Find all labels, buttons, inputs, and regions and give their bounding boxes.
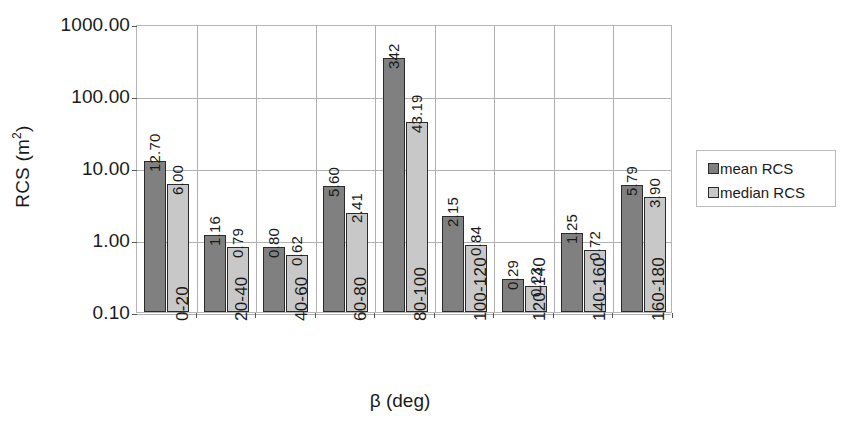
- bar-value-label: 6.00: [170, 165, 185, 195]
- bar-value-label: 43.19: [409, 95, 424, 134]
- x-axis-tick-mark: [255, 313, 256, 318]
- y-axis-tick-label: 10.00: [34, 159, 130, 178]
- bar-value-label: 0.29: [505, 260, 520, 290]
- legend-swatch-mean-icon: [708, 163, 719, 174]
- bar-value-label: 2.15: [445, 197, 460, 227]
- bar-value-label: 1.25: [564, 214, 579, 244]
- bar-mean-rcs: [383, 58, 405, 312]
- y-axis-tick-label: 0.10: [34, 303, 130, 322]
- x-axis-tick-label: 0-20: [174, 286, 191, 321]
- x-axis-tick-mark: [672, 313, 673, 318]
- y-axis-tick-label: 1.00: [34, 231, 130, 250]
- bar-value-label: 1.16: [207, 216, 222, 246]
- x-axis-tick-mark: [553, 313, 554, 318]
- bar-value-label: 0.80: [266, 228, 281, 258]
- gridline-vertical: [375, 26, 376, 312]
- bar-value-label: 5.60: [326, 167, 341, 197]
- x-axis-tick-label: 60-80: [352, 277, 369, 321]
- bar-value-label: 0.84: [468, 226, 483, 256]
- x-axis-tick-mark: [315, 313, 316, 318]
- bar-value-label: 0.62: [289, 236, 304, 266]
- y-axis-title-exponent: 2: [10, 132, 24, 139]
- legend-label-median: median RCS: [720, 185, 805, 200]
- y-axis-tick-mark: [132, 170, 137, 171]
- x-axis-tick-label: 160-180: [650, 257, 667, 321]
- gridline-vertical: [613, 26, 614, 312]
- x-axis-tick-mark: [196, 313, 197, 318]
- bar-value-label: 5.79: [624, 166, 639, 196]
- bar-mean-rcs: [323, 186, 345, 312]
- legend-swatch-median-icon: [708, 187, 719, 198]
- x-axis-tick-mark: [612, 313, 613, 318]
- y-axis-tick-label: 100.00: [34, 87, 130, 106]
- bar-value-label: 3.90: [647, 178, 662, 208]
- bar-mean-rcs: [442, 216, 464, 312]
- x-axis-tick-label: 120-140: [531, 257, 548, 321]
- gridline-vertical: [256, 26, 257, 312]
- x-axis-tick-mark: [493, 313, 494, 318]
- legend-item-median: median RCS: [708, 182, 835, 203]
- rcs-bar-chart: RCS (m2) 1000.00100.0010.001.000.10 12.7…: [0, 0, 868, 436]
- gridline-vertical: [316, 26, 317, 312]
- bar-mean-rcs: [621, 185, 643, 312]
- x-axis-tick-label: 40-60: [293, 277, 310, 321]
- y-axis-tick-labels: 1000.00100.0010.001.000.10: [30, 0, 130, 436]
- x-axis-tick-label: 100-120: [472, 257, 489, 321]
- gridline-vertical: [494, 26, 495, 312]
- bar-value-label: 2.41: [349, 193, 364, 223]
- x-axis-tick-label: 20-40: [233, 277, 250, 321]
- legend: mean RCS median RCS: [696, 150, 836, 207]
- y-axis-tick-mark: [132, 242, 137, 243]
- bar-mean-rcs: [204, 235, 226, 312]
- bar-value-label: 12.70: [147, 133, 162, 172]
- bar-mean-rcs: [144, 161, 166, 312]
- gridline-vertical: [554, 26, 555, 312]
- y-axis-tick-mark: [132, 98, 137, 99]
- gridline-vertical: [435, 26, 436, 312]
- x-axis-title: β (deg): [290, 390, 510, 412]
- legend-label-mean: mean RCS: [720, 161, 793, 176]
- x-axis-tick-label: 80-100: [412, 267, 429, 321]
- y-axis-tick-label: 1000.00: [34, 15, 130, 34]
- bar-value-label: 0.79: [230, 228, 245, 258]
- y-axis-tick-mark: [132, 26, 137, 27]
- bar-mean-rcs: [561, 233, 583, 312]
- x-axis-tick-labels: 0-2020-4040-6060-8080-100100-120120-1401…: [136, 313, 672, 393]
- x-axis-tick-label: 140-160: [591, 257, 608, 321]
- legend-item-mean: mean RCS: [708, 158, 835, 179]
- x-axis-tick-mark: [374, 313, 375, 318]
- gridline-vertical: [197, 26, 198, 312]
- x-axis-tick-mark: [434, 313, 435, 318]
- bar-value-label: 342: [386, 43, 401, 69]
